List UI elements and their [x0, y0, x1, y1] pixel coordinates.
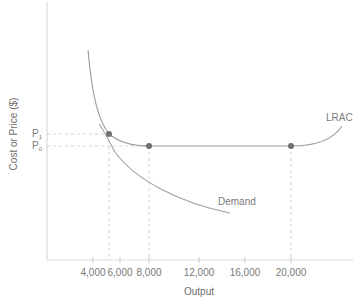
x-tick-4000: 4,000 — [80, 267, 105, 278]
x-tick-6000: 6,000 — [107, 267, 132, 278]
x-axis-title: Output — [184, 286, 214, 297]
mes-end-dot — [288, 143, 294, 149]
y-tick-p0: P0 — [32, 140, 43, 152]
demand-label: Demand — [218, 196, 256, 207]
x-tick-16000: 16,000 — [230, 267, 261, 278]
demand-curve — [99, 124, 230, 213]
x-tick-20000: 20,000 — [276, 267, 307, 278]
mes-start-dot — [146, 143, 152, 149]
x-tick-12000: 12,000 — [184, 267, 215, 278]
y-tick-p1: P1 — [32, 128, 43, 140]
lrac-curve — [88, 50, 342, 146]
lrac-label: LRAC — [326, 112, 353, 123]
cost-curve-chart: P1 P0 4,000 6,000 8,000 12,000 16,000 20… — [0, 0, 364, 306]
x-tick-8000: 8,000 — [136, 267, 161, 278]
intersection-dot — [106, 131, 112, 137]
y-axis-title: Cost or Price ($) — [8, 98, 19, 171]
